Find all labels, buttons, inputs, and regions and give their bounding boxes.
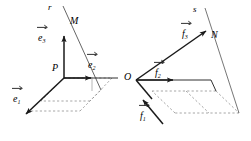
vector-index-f2: 2 [158, 73, 161, 79]
vector-index-e1: 1 [17, 99, 20, 105]
vector-arrow-e3 [37, 24, 47, 29]
right-base-plane-dashed [152, 91, 239, 113]
vector-base-e1: e [13, 93, 17, 104]
vector-label-e2: e2 [88, 55, 95, 71]
axis-f1-right-stub [136, 80, 152, 99]
label-point-p: P [52, 63, 58, 73]
vector-arrow-f2 [154, 59, 164, 64]
vector-index-f3: 3 [185, 34, 188, 40]
vector-label-f1: f1 [140, 106, 146, 122]
vector-arrow-f1 [139, 102, 149, 107]
vector-label-f2: f2 [155, 63, 161, 79]
vector-base-f3: f [182, 28, 185, 39]
left-base-plane-dashed [31, 78, 112, 111]
figure-canvas: r M P e3 e2 e1 s N O [0, 0, 251, 141]
right-base-plane-solid-edges [136, 80, 216, 91]
vector-arrow-e1 [12, 85, 22, 90]
vector-arrow-e2 [87, 51, 97, 56]
label-point-n: N [211, 30, 218, 40]
axis-e1-left [26, 78, 64, 114]
vector-index-e2: 2 [92, 65, 95, 71]
label-point-o: O [124, 72, 131, 82]
axis-f3-right [136, 31, 206, 80]
vector-base-e2: e [88, 59, 92, 70]
vector-label-e1: e1 [13, 89, 20, 105]
vector-base-e3: e [38, 32, 42, 43]
vector-arrow-f3 [181, 20, 191, 25]
label-line-s: s [193, 5, 197, 14]
vector-label-e3: e3 [38, 28, 45, 44]
vector-label-f3: f3 [182, 24, 188, 40]
vector-index-e3: 3 [42, 38, 45, 44]
vector-index-f1: 1 [143, 116, 146, 122]
label-line-r: r [48, 3, 52, 12]
vector-base-f2: f [155, 67, 158, 78]
label-point-m: M [70, 16, 78, 26]
line-s [205, 8, 239, 113]
vector-base-f1: f [140, 110, 143, 121]
